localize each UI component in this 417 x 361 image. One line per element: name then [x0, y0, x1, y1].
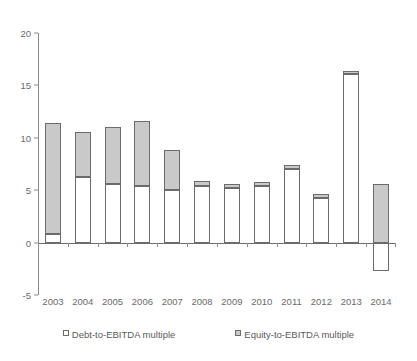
- stacked-bar[interactable]: [134, 33, 150, 295]
- bar-column[interactable]: [336, 33, 366, 295]
- x-axis-label: 2012: [306, 296, 336, 307]
- bar-segment-equity[interactable]: [134, 121, 150, 186]
- bar-column[interactable]: [187, 33, 217, 295]
- bar-segment-debt[interactable]: [45, 234, 61, 242]
- stacked-bar[interactable]: [75, 33, 91, 295]
- bar-segment-equity[interactable]: [254, 182, 270, 186]
- bar-segment-equity[interactable]: [105, 127, 121, 184]
- x-tick-mark: [217, 243, 218, 247]
- bar-segment-debt[interactable]: [105, 184, 121, 243]
- bar-column[interactable]: [277, 33, 307, 295]
- y-tick-label: 0: [26, 237, 31, 248]
- bar-segment-debt[interactable]: [75, 177, 91, 243]
- bar-segment-debt[interactable]: [373, 243, 389, 271]
- x-axis-label: 2003: [38, 296, 68, 307]
- x-axis-label: 2006: [127, 296, 157, 307]
- legend-label: Debt-to-EBITDA multiple: [72, 330, 175, 340]
- x-tick-mark: [68, 243, 69, 247]
- x-axis-labels: 2003200420052006200720082009201020112012…: [38, 296, 396, 307]
- x-tick-mark: [336, 243, 337, 247]
- x-tick-mark: [127, 243, 128, 247]
- bar-segment-debt[interactable]: [224, 188, 240, 242]
- bar-column[interactable]: [217, 33, 247, 295]
- bar-segment-equity[interactable]: [75, 132, 91, 177]
- bar-segment-equity[interactable]: [313, 194, 329, 197]
- bar-column[interactable]: [127, 33, 157, 295]
- bar-segment-equity[interactable]: [224, 184, 240, 188]
- stacked-bar[interactable]: [224, 33, 240, 295]
- x-tick-mark: [395, 243, 396, 247]
- plot-area: 20151050-5: [38, 33, 396, 295]
- bar-segment-debt[interactable]: [313, 198, 329, 243]
- y-tick-label: 10: [20, 132, 31, 143]
- x-axis-label: 2010: [247, 296, 277, 307]
- stacked-bar[interactable]: [343, 33, 359, 295]
- x-axis-label: 2008: [187, 296, 217, 307]
- legend-item[interactable]: Equity-to-EBITDA multiple: [235, 330, 354, 340]
- x-tick-mark: [366, 243, 367, 247]
- y-tick-label: -5: [23, 290, 31, 301]
- x-tick-mark: [306, 243, 307, 247]
- bar-column[interactable]: [306, 33, 336, 295]
- x-axis-label: 2007: [157, 296, 187, 307]
- legend-swatch-equity: [235, 330, 241, 336]
- bar-segment-debt[interactable]: [164, 190, 180, 242]
- bar-columns: [38, 33, 396, 295]
- x-tick-mark: [38, 243, 39, 247]
- x-tick-mark: [98, 243, 99, 247]
- legend-swatch-debt: [63, 330, 69, 336]
- stacked-bar[interactable]: [45, 33, 61, 295]
- stacked-bar[interactable]: [284, 33, 300, 295]
- y-tick-label: 15: [20, 80, 31, 91]
- stacked-bar[interactable]: [254, 33, 270, 295]
- bar-segment-equity[interactable]: [284, 165, 300, 169]
- x-axis-label: 2013: [336, 296, 366, 307]
- chart-legend: Debt-to-EBITDA multipleEquity-to-EBITDA …: [0, 330, 417, 340]
- x-axis-label: 2011: [277, 296, 307, 307]
- bar-segment-debt[interactable]: [284, 169, 300, 242]
- bar-column[interactable]: [366, 33, 396, 295]
- stacked-bar[interactable]: [194, 33, 210, 295]
- bar-column[interactable]: [68, 33, 98, 295]
- stacked-bar[interactable]: [313, 33, 329, 295]
- bar-segment-debt[interactable]: [194, 186, 210, 243]
- bar-segment-equity[interactable]: [164, 150, 180, 190]
- bar-segment-equity[interactable]: [45, 123, 61, 234]
- stacked-bar[interactable]: [105, 33, 121, 295]
- x-tick-mark: [157, 243, 158, 247]
- bar-column[interactable]: [247, 33, 277, 295]
- stacked-bar[interactable]: [164, 33, 180, 295]
- x-tick-mark: [247, 243, 248, 247]
- x-axis-label: 2014: [366, 296, 396, 307]
- legend-label: Equity-to-EBITDA multiple: [244, 330, 354, 340]
- bar-column[interactable]: [157, 33, 187, 295]
- y-tick-label: 5: [26, 185, 31, 196]
- bar-segment-equity[interactable]: [194, 181, 210, 186]
- legend-item[interactable]: Debt-to-EBITDA multiple: [63, 330, 175, 340]
- bar-column[interactable]: [38, 33, 68, 295]
- x-tick-mark: [187, 243, 188, 247]
- bar-segment-debt[interactable]: [134, 186, 150, 243]
- x-axis-label: 2009: [217, 296, 247, 307]
- bar-segment-equity[interactable]: [373, 184, 389, 243]
- x-axis-label: 2005: [98, 296, 128, 307]
- y-tick-label: 20: [20, 28, 31, 39]
- x-tick-mark: [277, 243, 278, 247]
- bar-segment-debt[interactable]: [343, 74, 359, 243]
- bar-segment-debt[interactable]: [254, 186, 270, 243]
- x-axis-label: 2004: [68, 296, 98, 307]
- stacked-bar-chart: 20151050-5 20032004200520062007200820092…: [0, 0, 417, 361]
- bar-segment-equity[interactable]: [343, 71, 359, 74]
- bar-column[interactable]: [98, 33, 128, 295]
- stacked-bar[interactable]: [373, 33, 389, 295]
